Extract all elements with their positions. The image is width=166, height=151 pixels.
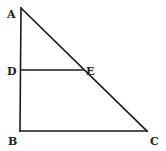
label-c: C <box>150 135 159 148</box>
label-e: E <box>86 65 94 78</box>
label-d: D <box>7 65 17 78</box>
label-b: B <box>8 135 17 148</box>
label-a: A <box>6 8 16 21</box>
triangle-diagram: A D E B C <box>0 0 166 151</box>
